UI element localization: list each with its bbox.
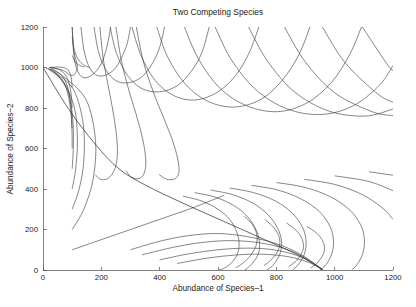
x-tick-label: 1200: [384, 273, 402, 282]
x-axis-label: Abundance of Species–1: [172, 284, 263, 293]
chart-title: Two Competing Species: [173, 7, 263, 17]
x-tick-label: 400: [153, 273, 167, 282]
y-tick-label: 1200: [21, 23, 39, 32]
x-tick-label: 200: [95, 273, 109, 282]
y-tick-label: 200: [25, 225, 39, 234]
y-tick-label: 400: [25, 185, 39, 194]
x-tick-label: 0: [41, 273, 46, 282]
y-tick-label: 0: [34, 266, 39, 275]
y-tick-label: 1000: [21, 63, 39, 72]
y-tick-label: 600: [25, 144, 39, 153]
phase-plane-plot: 020040060080010001200 020040060080010001…: [0, 0, 416, 307]
x-tick-label: 800: [270, 273, 284, 282]
x-tick-label: 1000: [326, 273, 344, 282]
x-tick-label: 600: [211, 273, 225, 282]
y-tick-label: 800: [25, 104, 39, 113]
y-axis-label: Abundance of Species–2: [6, 103, 15, 194]
matlab-figure-window: 020040060080010001200 020040060080010001…: [0, 0, 416, 307]
